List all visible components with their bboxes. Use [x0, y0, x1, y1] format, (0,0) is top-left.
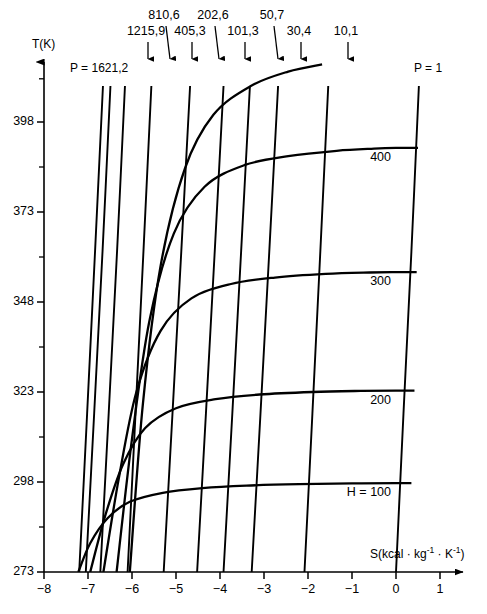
y-axis-ticks — [37, 79, 44, 572]
ts-diagram-figure: 273298323348373398 −8−7−6−5−4−3−2−101 T(… — [0, 0, 487, 614]
isobar-label-highest-pressure: P = 1621,2 — [70, 61, 128, 75]
isobar-curve — [224, 86, 250, 572]
isobar-arrow-label: 10,1 — [334, 24, 358, 38]
isenthalp-curve — [130, 64, 322, 572]
isobar-arrow-label: 50,7 — [260, 8, 284, 22]
x-axis-title-main: S(kcal · kg — [370, 547, 427, 561]
y-tick-label: 348 — [13, 294, 34, 308]
isenthalp-curve — [117, 148, 418, 572]
isobar-curve — [164, 86, 190, 572]
isobar-pointer-arrow — [215, 26, 219, 59]
x-tick-label: −4 — [213, 582, 227, 596]
x-axis-title: S(kcal · kg-1 · K-1) — [370, 545, 464, 561]
isobar-curve — [197, 86, 223, 572]
isobar-label-lowest-pressure: P = 1 — [414, 61, 442, 75]
y-tick-label: 398 — [13, 114, 34, 128]
isobar-curve — [396, 86, 419, 572]
isenthalp-label: H = 100 — [347, 485, 391, 499]
svg-text:S(kcal · kg-1 · K-1): S(kcal · kg-1 · K-1) — [370, 545, 464, 561]
isobar-arrow-label: 405,3 — [174, 24, 205, 38]
x-tick-label: −7 — [81, 582, 95, 596]
x-tick-label: −6 — [125, 582, 139, 596]
isobar-curve — [100, 86, 125, 572]
isobar-curve — [304, 86, 328, 572]
isobar-arrow-label: 1215,9 — [127, 24, 165, 38]
isenthalp-label: 300 — [370, 274, 391, 288]
isobar-curve — [86, 86, 111, 572]
isobar-arrow-label: 101,3 — [227, 24, 258, 38]
isobar-arrow-labels: 1215,9810,6405,3202,6101,350,730,410,1 — [127, 8, 358, 38]
isobar-pointer-arrow — [274, 26, 278, 59]
y-tick-label: 298 — [13, 474, 34, 488]
x-axis-tick-labels: −8−7−6−5−4−3−2−101 — [37, 582, 444, 596]
isenthalp-label: 400 — [370, 150, 391, 164]
x-tick-label: −1 — [345, 582, 359, 596]
y-tick-label: 373 — [13, 204, 34, 218]
x-axis-title-close: ) — [460, 547, 464, 561]
y-axis-tick-labels: 273298323348373398 — [13, 114, 34, 578]
isenthalp-labels: H = 100200300400 — [347, 150, 391, 499]
x-axis-title-mid: · K — [434, 547, 453, 561]
y-axis-title: T(K) — [32, 37, 55, 51]
x-tick-label: −2 — [301, 582, 315, 596]
isobar-arrow-label: 202,6 — [197, 8, 228, 22]
ts-diagram-canvas: 273298323348373398 −8−7−6−5−4−3−2−101 T(… — [0, 0, 487, 614]
y-tick-label: 273 — [13, 564, 34, 578]
isobar-arrow-label: 810,6 — [148, 8, 179, 22]
isenthalp-label: 200 — [370, 393, 391, 407]
x-axis-ticks — [44, 572, 440, 579]
x-tick-label: 1 — [437, 582, 444, 596]
y-tick-label: 323 — [13, 384, 34, 398]
x-tick-label: −8 — [37, 582, 51, 596]
isobar-arrow-label: 30,4 — [287, 24, 311, 38]
x-tick-label: −3 — [257, 582, 271, 596]
x-tick-label: −5 — [169, 582, 183, 596]
x-tick-label: 0 — [393, 582, 400, 596]
isobar-pointer-arrow — [166, 26, 170, 59]
